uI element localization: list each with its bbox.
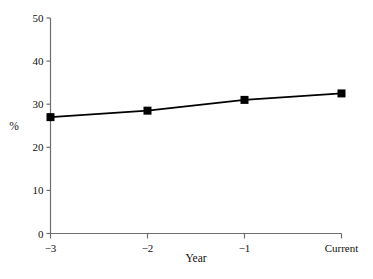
y-tick-label: 20 [33, 142, 44, 153]
x-axis-title: Year [185, 252, 206, 264]
data-point-marker [47, 113, 55, 121]
chart-canvas [0, 0, 373, 279]
y-tick-label: 0 [38, 228, 44, 239]
y-axis-title: % [9, 120, 19, 132]
axes-group [50, 18, 342, 234]
x-tick-label: −3 [45, 243, 57, 254]
x-tick-label: Current [325, 243, 359, 254]
y-tick-label: 50 [33, 13, 44, 24]
data-series-line [51, 93, 342, 117]
x-tick-marks [51, 234, 342, 239]
y-tick-label: 40 [33, 56, 44, 67]
x-tick-label: −2 [142, 243, 154, 254]
data-point-marker [241, 96, 249, 104]
y-tick-label: 10 [33, 185, 44, 196]
x-tick-label: −1 [239, 243, 251, 254]
data-point-marker [144, 107, 152, 115]
data-point-marker [338, 89, 346, 97]
y-tick-label: 30 [33, 99, 44, 110]
line-chart: 01020304050 −3−2−1Current % Year [0, 0, 373, 279]
